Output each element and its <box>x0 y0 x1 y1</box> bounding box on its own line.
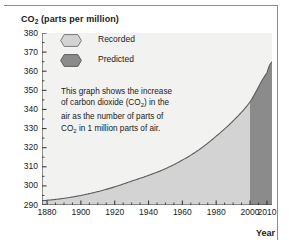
annotation-line-3: air as the number of parts of <box>61 112 163 121</box>
hexagon-swatch-icon <box>60 54 82 67</box>
x-tick-label: 1960 <box>165 208 199 217</box>
y-axis-title-main: CO <box>21 14 35 24</box>
x-tick-label: 1880 <box>30 208 64 217</box>
annotation-line-1: This graph shows the increase <box>61 87 172 96</box>
legend-label-predicted: Predicted <box>98 55 134 64</box>
y-tick-label: 350 <box>14 86 38 95</box>
y-tick-label: 330 <box>14 124 38 133</box>
x-axis-title: Year <box>256 228 275 238</box>
legend-label-recorded: Recorded <box>98 35 135 44</box>
y-axis-tick-labels: 290300310320330340350360370380 <box>12 33 38 205</box>
annotation-line-4a: CO <box>61 124 73 133</box>
legend-item-predicted: Predicted <box>60 52 180 72</box>
x-axis-tick-labels: 18801900192019401960198020002010 <box>0 208 291 222</box>
co2-chart-figure: CO2 (parts per million) 2903003103203303… <box>0 0 291 246</box>
y-tick-label: 340 <box>14 105 38 114</box>
annotation-line-4b: in 1 million parts of air. <box>77 124 161 133</box>
annotation-line-2b: ) in the <box>144 98 169 107</box>
y-tick-label: 300 <box>14 181 38 190</box>
chart-legend: Recorded Predicted <box>60 32 180 72</box>
legend-item-recorded: Recorded <box>60 32 180 52</box>
hexagon-swatch-icon <box>60 34 82 47</box>
y-axis-title-rest: (parts per million) <box>38 14 119 24</box>
y-tick-label: 360 <box>14 67 38 76</box>
y-axis-title: CO2 (parts per million) <box>21 14 119 25</box>
x-tick-label: 1980 <box>199 208 233 217</box>
y-tick-label: 320 <box>14 143 38 152</box>
x-tick-label: 1920 <box>98 208 132 217</box>
annotation-line-2a: of carbon dioxide (CO <box>61 98 141 107</box>
x-tick-label: 1940 <box>132 208 166 217</box>
x-tick-label: 2010 <box>250 208 284 217</box>
y-tick-label: 310 <box>14 162 38 171</box>
chart-annotation: This graph shows the increase of carbon … <box>61 86 189 137</box>
y-tick-label: 370 <box>14 48 38 57</box>
x-tick-label: 1900 <box>64 208 98 217</box>
y-tick-label: 380 <box>14 29 38 38</box>
